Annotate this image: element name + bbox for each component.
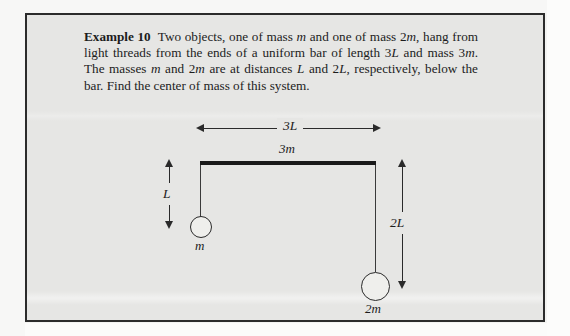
left-drop-dimension-label: L [163, 183, 171, 205]
scan-margin-bottom [0, 323, 570, 336]
mass-m-label: m [195, 238, 204, 254]
example-box: Example 10 Two objects, one of mass m an… [25, 13, 545, 322]
span-dimension-label: 3L [277, 118, 303, 134]
right-drop-arrow-down-icon [398, 281, 406, 289]
scan-margin-right [547, 0, 570, 336]
right-drop-arrow-up-icon [398, 159, 406, 167]
scan-margin-left [0, 0, 25, 336]
left-drop-arrow-down-icon [165, 221, 173, 229]
mass-2m-label: 2m [365, 301, 381, 317]
span-arrow-left-icon [196, 124, 204, 132]
uniform-bar [200, 161, 376, 165]
mass-2m-circle [361, 272, 390, 301]
scan-margin-top [0, 0, 570, 13]
span-arrow-right-icon [373, 124, 381, 132]
mechanics-diagram: 3L 3m m 2m L 2L [27, 15, 543, 320]
bar-mass-label: 3m [279, 141, 295, 157]
right-drop-dimension-label: 2L [390, 212, 404, 234]
scanned-textbook-page: Example 10 Two objects, one of mass m an… [0, 0, 570, 336]
thread-right [375, 165, 376, 272]
left-drop-arrow-up-icon [165, 159, 173, 167]
mass-m-circle [190, 216, 212, 238]
